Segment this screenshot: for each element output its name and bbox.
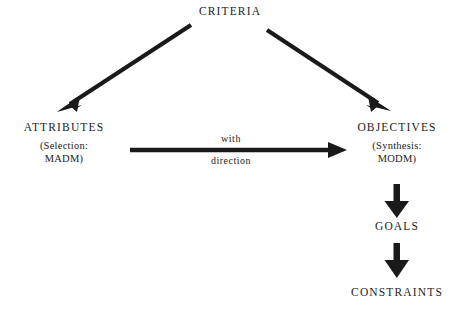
node-objectives: OBJECTIVES (Synthesis: MODM) <box>357 120 436 165</box>
node-goals-title: GOALS <box>375 219 419 233</box>
node-objectives-subtitle-line2: MODM) <box>357 152 436 165</box>
node-objectives-subtitle-line1: (Synthesis: <box>357 139 436 152</box>
edge-label-with-text: with <box>221 133 241 144</box>
node-constraints-title: CONSTRAINTS <box>351 285 443 299</box>
node-objectives-subtitle: (Synthesis: MODM) <box>357 139 436 165</box>
node-attributes-subtitle: (Selection: MADM) <box>24 139 105 165</box>
node-attributes-subtitle-line2: MADM) <box>24 152 105 165</box>
edge-label-with: with <box>221 133 241 145</box>
arrow-criteria-to-objectives <box>267 30 391 112</box>
node-attributes-subtitle-line1: (Selection: <box>24 139 105 152</box>
node-criteria: CRITERIA <box>199 4 261 18</box>
arrow-objectives-to-goals <box>385 184 410 218</box>
node-attributes-title: ATTRIBUTES <box>24 120 105 134</box>
edge-label-direction-text: direction <box>211 155 251 166</box>
criteria-decomposition-diagram: CRITERIA ATTRIBUTES (Selection: MADM) OB… <box>0 0 455 313</box>
node-objectives-title: OBJECTIVES <box>357 120 436 134</box>
node-goals: GOALS <box>375 219 419 233</box>
node-attributes: ATTRIBUTES (Selection: MADM) <box>24 120 105 165</box>
edge-label-direction: direction <box>211 155 251 167</box>
arrow-criteria-to-attributes <box>57 25 191 112</box>
arrow-goals-to-constraints <box>385 243 410 278</box>
node-constraints: CONSTRAINTS <box>351 285 443 299</box>
node-criteria-title: CRITERIA <box>199 4 261 18</box>
